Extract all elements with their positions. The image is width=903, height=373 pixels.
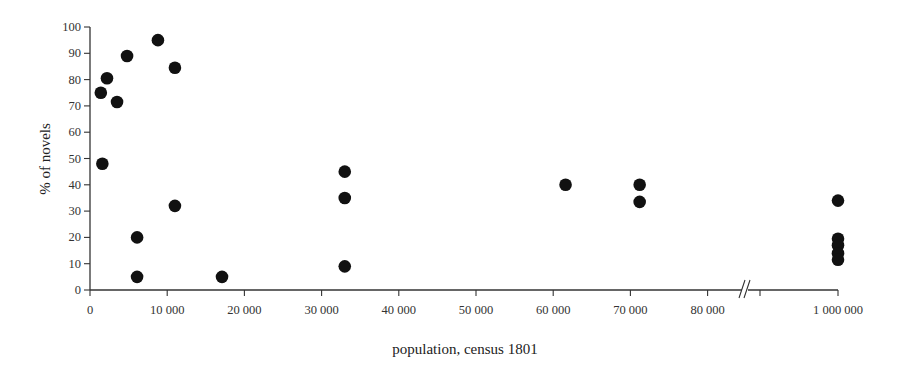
- data-point: [832, 253, 845, 266]
- data-point: [633, 179, 646, 192]
- data-point: [96, 157, 109, 170]
- y-axis-title: % of novels: [37, 123, 53, 195]
- data-point: [169, 61, 182, 74]
- data-point: [216, 271, 229, 284]
- y-tick-label: 90: [69, 46, 82, 60]
- y-tick-label: 60: [69, 125, 82, 139]
- y-tick-label: 30: [69, 204, 82, 218]
- data-point: [131, 231, 144, 244]
- x-tick-label: 60 000: [536, 303, 570, 317]
- y-tick-label: 50: [69, 152, 82, 166]
- data-point: [633, 196, 646, 209]
- x-tick-label: 70 000: [613, 303, 647, 317]
- x-tick-label: 40 000: [382, 303, 416, 317]
- axis-break-icon: [739, 280, 750, 298]
- data-point: [101, 72, 114, 85]
- data-point: [169, 200, 182, 213]
- data-point: [338, 165, 351, 178]
- data-point: [832, 194, 845, 207]
- y-tick-label: 80: [69, 73, 82, 87]
- x-axis: 010 00020 00030 00040 00050 00060 00070 …: [87, 280, 863, 317]
- x-axis-title: population, census 1801: [392, 341, 537, 357]
- data-point: [338, 192, 351, 205]
- data-point: [338, 260, 351, 273]
- x-tick-label: 1 000 000: [813, 303, 863, 317]
- y-tick-label: 20: [69, 230, 82, 244]
- x-tick-label: 30 000: [304, 303, 338, 317]
- x-tick-label: 0: [87, 303, 93, 317]
- data-point: [111, 96, 124, 109]
- data-point: [95, 86, 108, 99]
- y-tick-label: 100: [62, 20, 81, 34]
- x-tick-label: 10 000: [150, 303, 184, 317]
- data-point: [152, 34, 165, 47]
- x-tick-label: 50 000: [459, 303, 493, 317]
- x-tick-label: 80 000: [690, 303, 724, 317]
- x-tick-label: 20 000: [227, 303, 261, 317]
- data-point: [121, 50, 134, 63]
- data-point: [559, 179, 572, 192]
- y-tick-label: 10: [69, 257, 82, 271]
- data-point: [131, 271, 144, 284]
- scatter-chart: 0102030405060708090100 010 00020 00030 0…: [0, 0, 903, 373]
- data-points: [95, 34, 845, 283]
- y-tick-label: 0: [75, 283, 81, 297]
- y-tick-label: 70: [69, 99, 82, 113]
- y-axis: 0102030405060708090100: [62, 20, 90, 297]
- y-tick-label: 40: [69, 178, 82, 192]
